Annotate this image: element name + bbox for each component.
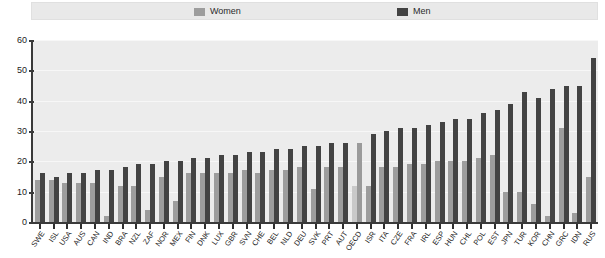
x-axis-labels: SWEISLUSAAUSCANINDBRANZLZAFNORMEXFINDNKL… [33,230,598,258]
bar-men[interactable] [191,158,196,222]
x-label-cell: CHE [254,230,268,258]
bar-group[interactable] [47,40,61,222]
bar-group[interactable] [446,40,460,222]
bar-men[interactable] [302,146,307,222]
bar-men[interactable] [233,155,238,222]
bar-group[interactable] [433,40,447,222]
bar-group[interactable] [129,40,143,222]
bar-group[interactable] [295,40,309,222]
bar-men[interactable] [522,92,527,222]
bar-group[interactable] [322,40,336,222]
bar-men[interactable] [274,149,279,222]
bar-group[interactable] [281,40,295,222]
bar-men[interactable] [95,170,100,222]
bar-group[interactable] [171,40,185,222]
bar-men[interactable] [467,119,472,222]
bar-men[interactable] [398,128,403,222]
x-tick-mark [521,224,523,229]
bar-group[interactable] [157,40,171,222]
bar-group[interactable] [391,40,405,222]
x-tick-cell [129,224,143,229]
bar-men[interactable] [453,119,458,222]
bar-men[interactable] [412,128,417,222]
bar-group[interactable] [419,40,433,222]
bar-group[interactable] [529,40,543,222]
bar-men[interactable] [40,173,45,222]
x-label-cell: DNK [198,230,212,258]
bar-men[interactable] [81,173,86,222]
bar-group[interactable] [267,40,281,222]
bar-men[interactable] [384,131,389,222]
bar-men[interactable] [178,161,183,222]
bar-men[interactable] [150,164,155,222]
bar-series-container [33,40,598,222]
x-tick-label: POL [472,230,487,247]
bar-men[interactable] [371,134,376,222]
bar-men[interactable] [164,161,169,222]
bar-men[interactable] [495,110,500,222]
bar-group[interactable] [474,40,488,222]
bar-men[interactable] [508,104,513,222]
bar-group[interactable] [570,40,584,222]
bar-group[interactable] [198,40,212,222]
bar-group[interactable] [254,40,268,222]
bar-group[interactable] [116,40,130,222]
bar-men[interactable] [550,89,555,222]
bar-group[interactable] [460,40,474,222]
bar-men[interactable] [591,58,596,222]
bar-group[interactable] [557,40,571,222]
bar-men[interactable] [123,167,128,222]
bar-group[interactable] [212,40,226,222]
bar-group[interactable] [502,40,516,222]
x-tick-label: EST [486,230,501,247]
x-tick-label: DEU [293,230,309,248]
bar-men[interactable] [316,146,321,222]
bar-group[interactable] [364,40,378,222]
bar-group[interactable] [350,40,364,222]
bar-men[interactable] [343,143,348,222]
bar-men[interactable] [440,122,445,222]
bar-group[interactable] [309,40,323,222]
bar-group[interactable] [185,40,199,222]
bar-men[interactable] [357,143,362,222]
x-tick-mark [66,224,68,229]
bar-men[interactable] [329,143,334,222]
x-tick-mark [259,224,261,229]
bar-group[interactable] [240,40,254,222]
bar-men[interactable] [288,149,293,222]
x-tick-label: NOR [154,230,170,248]
bar-men[interactable] [219,155,224,222]
bar-group[interactable] [61,40,75,222]
bar-group[interactable] [88,40,102,222]
bar-men[interactable] [577,86,582,223]
x-tick-mark [149,224,151,229]
x-tick-cell [336,224,350,229]
bar-men[interactable] [564,86,569,223]
bar-group[interactable] [515,40,529,222]
bar-group[interactable] [226,40,240,222]
bar-men[interactable] [205,158,210,222]
bar-group[interactable] [488,40,502,222]
bar-group[interactable] [102,40,116,222]
bar-men[interactable] [247,152,252,222]
bar-men[interactable] [481,113,486,222]
bar-men[interactable] [260,152,265,222]
bar-group[interactable] [143,40,157,222]
x-label-cell: DEU [295,230,309,258]
x-label-cell: GBR [226,230,240,258]
bar-group[interactable] [33,40,47,222]
bar-men[interactable] [136,164,141,222]
bar-group[interactable] [405,40,419,222]
bar-men[interactable] [54,177,59,223]
bar-group[interactable] [336,40,350,222]
bar-group[interactable] [378,40,392,222]
bar-men[interactable] [426,125,431,222]
bar-group[interactable] [543,40,557,222]
bar-group[interactable] [74,40,88,222]
bar-men[interactable] [536,98,541,222]
bar-men[interactable] [109,170,114,222]
bar-group[interactable] [584,40,598,222]
y-tick-mark [29,131,34,133]
bar-men[interactable] [67,173,72,222]
x-tick-label: NZL [128,230,143,246]
